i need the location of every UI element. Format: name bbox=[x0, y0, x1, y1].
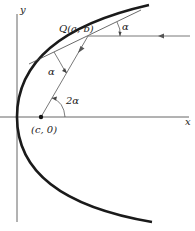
x-axis-label: x bbox=[185, 116, 191, 127]
angle-arc-focus bbox=[52, 98, 65, 117]
tangent-line bbox=[29, 10, 141, 64]
y-axis-label: y bbox=[19, 4, 26, 15]
focus-point bbox=[39, 115, 43, 119]
point-q-label: Q(a, b) bbox=[59, 23, 94, 34]
parabola-diagram: y x Q(a, b) (c, 0) α α 2α bbox=[0, 0, 195, 231]
reflected-arrow-icon bbox=[78, 46, 85, 53]
two-alpha-label: 2α bbox=[65, 95, 79, 106]
alpha-label-incoming: α bbox=[122, 21, 129, 32]
angle-arc-reflected-arrow-icon bbox=[62, 68, 67, 73]
incoming-arrow-icon bbox=[158, 34, 164, 39]
alpha-label-reflected: α bbox=[48, 66, 55, 77]
focus-label: (c, 0) bbox=[31, 124, 57, 135]
angle-arc-arrow-icon bbox=[118, 32, 121, 37]
